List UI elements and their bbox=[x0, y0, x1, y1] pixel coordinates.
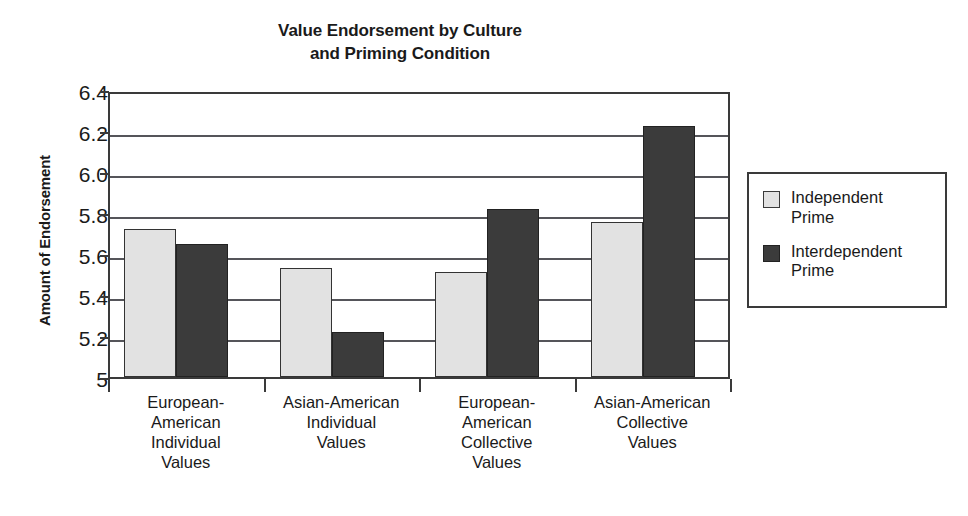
x-axis-category-label-line: Individual bbox=[254, 413, 430, 433]
y-axis-tick-label: 6.0 bbox=[38, 164, 108, 185]
bar-0-2 bbox=[435, 272, 487, 377]
x-axis-category-label-line: Collective bbox=[565, 413, 741, 433]
x-axis-tick-mark bbox=[730, 379, 732, 392]
x-axis-tick-mark bbox=[264, 379, 266, 392]
bar-0-3 bbox=[591, 222, 643, 377]
bars-layer bbox=[110, 94, 728, 377]
bar-1-0 bbox=[176, 244, 228, 377]
y-axis-tick-label: 6.4 bbox=[38, 82, 108, 103]
x-axis-category-label: European-AmericanCollectiveValues bbox=[409, 393, 585, 473]
bar-0-0 bbox=[124, 229, 176, 377]
legend-item-label: InterdependentPrime bbox=[791, 242, 902, 282]
bar-0-1 bbox=[280, 268, 332, 377]
x-axis-category-label-line: Values bbox=[565, 433, 741, 453]
legend-swatch-icon bbox=[763, 191, 780, 208]
x-axis-category-label-line: Values bbox=[98, 453, 274, 473]
x-axis-category-label: Asian-AmericanIndividualValues bbox=[254, 393, 430, 453]
y-axis-tick-label: 5.8 bbox=[38, 205, 108, 226]
legend-item-0: IndependentPrime bbox=[763, 188, 945, 228]
x-axis-category-label-line: Asian-American bbox=[565, 393, 741, 413]
chart-title-line-1: Value Endorsement by Culture bbox=[120, 20, 680, 43]
legend-item-label: IndependentPrime bbox=[791, 188, 883, 228]
legend-item-1: InterdependentPrime bbox=[763, 242, 945, 282]
x-axis-category-label: European-AmericanIndividualValues bbox=[98, 393, 274, 473]
bar-1-3 bbox=[643, 126, 695, 377]
x-axis-category-label-line: Values bbox=[254, 433, 430, 453]
plot-area bbox=[108, 92, 730, 379]
y-axis-tick-label: 5 bbox=[38, 369, 108, 390]
y-axis-tick-label: 6.2 bbox=[38, 123, 108, 144]
bar-chart-figure: Value Endorsement by Culture and Priming… bbox=[0, 0, 968, 516]
x-axis-category-label-line: American bbox=[409, 413, 585, 433]
y-axis-tick-label: 5.6 bbox=[38, 246, 108, 267]
legend-item-label-line: Independent bbox=[791, 188, 883, 208]
legend-item-label-line: Interdependent bbox=[791, 242, 902, 262]
y-axis-tick-label: 5.4 bbox=[38, 287, 108, 308]
chart-legend: IndependentPrimeInterdependentPrime bbox=[747, 172, 947, 308]
chart-title: Value Endorsement by Culture and Priming… bbox=[120, 20, 680, 66]
x-axis-category-label: Asian-AmericanCollectiveValues bbox=[565, 393, 741, 453]
x-axis-category-label-line: European- bbox=[409, 393, 585, 413]
x-axis-category-label-line: Values bbox=[409, 453, 585, 473]
x-axis-category-label-line: Asian-American bbox=[254, 393, 430, 413]
y-axis-tick-labels: 6.46.26.05.85.65.45.25 bbox=[0, 0, 108, 516]
x-axis-category-label-line: Collective bbox=[409, 433, 585, 453]
x-axis-tick-mark bbox=[575, 379, 577, 392]
legend-item-label-line: Prime bbox=[791, 208, 883, 228]
bar-1-1 bbox=[332, 332, 384, 377]
bar-1-2 bbox=[487, 209, 539, 377]
x-axis-tick-mark bbox=[108, 379, 110, 392]
x-axis-category-label-line: European- bbox=[98, 393, 274, 413]
chart-title-line-2: and Priming Condition bbox=[120, 43, 680, 66]
x-axis-category-label-line: Individual bbox=[98, 433, 274, 453]
legend-item-label-line: Prime bbox=[791, 261, 902, 281]
legend-swatch-icon bbox=[763, 245, 780, 262]
x-axis-tick-mark bbox=[419, 379, 421, 392]
y-axis-tick-label: 5.2 bbox=[38, 328, 108, 349]
x-axis-category-label-line: American bbox=[98, 413, 274, 433]
